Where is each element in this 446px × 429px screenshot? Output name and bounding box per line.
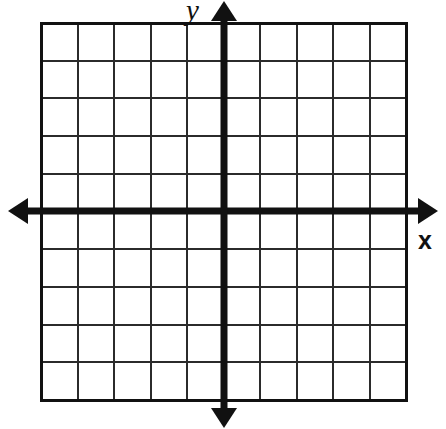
x-axis-arrow-left xyxy=(8,198,28,224)
axes-group xyxy=(8,1,438,428)
y-axis-arrow-up xyxy=(211,1,237,21)
y-axis-label: y xyxy=(186,0,199,25)
y-axis-arrow-down xyxy=(211,408,237,428)
coordinate-plane: y x xyxy=(0,0,446,429)
x-axis-label: x xyxy=(418,228,432,253)
x-axis-arrow-right xyxy=(418,198,438,224)
coordinate-grid-svg xyxy=(0,0,446,429)
